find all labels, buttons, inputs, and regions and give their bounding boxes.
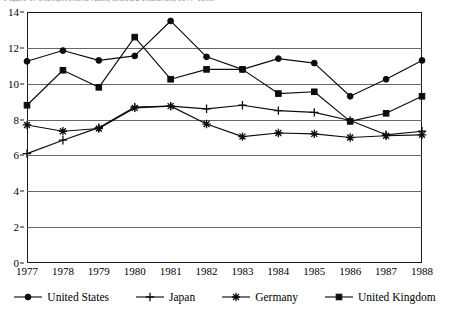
y-tick-label-14: 14 bbox=[8, 7, 19, 18]
x-tick-label-1986: 1986 bbox=[339, 265, 361, 277]
x-axis: 1977197819791980198119821983198419851986… bbox=[27, 265, 422, 281]
y-tick-mark-14 bbox=[20, 12, 24, 13]
legend-entry-germany[interactable]: Germany bbox=[221, 291, 298, 303]
x-tick-label-1982: 1982 bbox=[196, 265, 218, 277]
y-tick-label-10: 10 bbox=[8, 78, 19, 89]
series-united-states bbox=[24, 18, 425, 99]
square-marker-icon bbox=[324, 291, 354, 303]
y-axis: 02468101214 bbox=[0, 12, 24, 263]
legend-label: United States bbox=[47, 291, 109, 303]
y-tick-label-2: 2 bbox=[14, 222, 20, 233]
y-tick-mark-6 bbox=[20, 155, 24, 156]
legend-label: United Kingdom bbox=[358, 291, 436, 303]
y-tick-mark-4 bbox=[20, 191, 24, 192]
x-tick-label-1979: 1979 bbox=[88, 265, 110, 277]
y-tick-label-12: 12 bbox=[8, 42, 19, 53]
line-chart-figure: Figure 1. Unemployment rates, selected c… bbox=[0, 0, 449, 312]
y-tick-mark-2 bbox=[20, 227, 24, 228]
y-tick-mark-8 bbox=[20, 119, 24, 120]
x-tick-label-1987: 1987 bbox=[375, 265, 397, 277]
chart-legend: United StatesJapanGermanyUnited Kingdom bbox=[0, 286, 449, 308]
x-tick-label-1985: 1985 bbox=[303, 265, 325, 277]
y-tick-mark-0 bbox=[20, 263, 24, 264]
legend-entry-united-states[interactable]: United States bbox=[13, 291, 109, 303]
legend-label: Germany bbox=[255, 291, 298, 303]
legend-entry-japan[interactable]: Japan bbox=[135, 291, 195, 303]
cut-off-title-text: Figure 1. Unemployment rates, selected c… bbox=[4, 0, 444, 2]
legend-entry-united-kingdom[interactable]: United Kingdom bbox=[324, 291, 436, 303]
x-tick-label-1988: 1988 bbox=[411, 265, 433, 277]
y-tick-label-4: 4 bbox=[14, 186, 20, 197]
plus-marker-icon bbox=[135, 291, 165, 303]
x-tick-label-1983: 1983 bbox=[231, 265, 253, 277]
y-tick-mark-10 bbox=[20, 83, 24, 84]
plot-area bbox=[27, 12, 422, 263]
series-united-kingdom bbox=[24, 34, 425, 124]
star-marker-icon bbox=[221, 291, 251, 303]
x-tick-label-1978: 1978 bbox=[52, 265, 74, 277]
series-layer bbox=[27, 12, 422, 263]
circle-marker-icon bbox=[13, 291, 43, 303]
y-tick-mark-12 bbox=[20, 47, 24, 48]
legend-label: Japan bbox=[169, 291, 195, 303]
x-tick-label-1981: 1981 bbox=[160, 265, 182, 277]
y-tick-label-6: 6 bbox=[14, 150, 20, 161]
x-tick-label-1977: 1977 bbox=[16, 265, 38, 277]
x-tick-label-1980: 1980 bbox=[124, 265, 146, 277]
x-tick-label-1984: 1984 bbox=[267, 265, 289, 277]
series-germany bbox=[23, 102, 426, 142]
y-tick-label-8: 8 bbox=[14, 114, 20, 125]
